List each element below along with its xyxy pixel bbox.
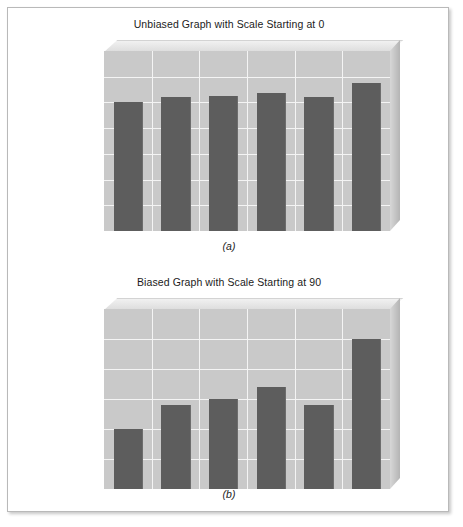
bar-2006[interactable]	[257, 387, 287, 489]
bar-2005[interactable]	[209, 96, 239, 231]
bar-chart-a: 0204060801001201402003200420052006200720…	[104, 40, 414, 235]
bar-2003[interactable]	[114, 429, 144, 489]
plot-area-a: 0204060801001201402003200420052006200720…	[104, 51, 390, 231]
figure-b: Biased Graph with Scale Starting at 90 9…	[8, 270, 450, 510]
bar-2004[interactable]	[161, 405, 191, 489]
figure-caption-b: (b)	[8, 488, 450, 500]
bar-2007[interactable]	[304, 97, 334, 231]
bar-2008[interactable]	[352, 339, 382, 489]
chart-title-b: Biased Graph with Scale Starting at 90	[8, 276, 450, 288]
bar-2003[interactable]	[114, 102, 144, 231]
figure-caption-a: (a)	[8, 240, 450, 252]
bar-2005[interactable]	[209, 399, 239, 489]
figure-page-frame: Unbiased Graph with Scale Starting at 0 …	[7, 7, 449, 512]
bar-2008[interactable]	[352, 83, 382, 231]
gridline-vertical	[152, 309, 153, 489]
bar-2004[interactable]	[161, 97, 191, 231]
gridline-vertical	[199, 309, 200, 489]
gridline-vertical	[152, 51, 153, 231]
gridline-vertical	[295, 309, 296, 489]
figure-a: Unbiased Graph with Scale Starting at 0 …	[8, 12, 450, 262]
gridline-vertical	[342, 51, 343, 231]
gridline-vertical	[342, 309, 343, 489]
plot-3d-right-face	[390, 40, 400, 231]
bar-chart-b: 9095100105110115120200320042005200620072…	[104, 298, 414, 493]
gridline-vertical	[247, 51, 248, 231]
bar-2006[interactable]	[257, 93, 287, 231]
gridline-vertical	[199, 51, 200, 231]
plot-3d-right-face	[390, 298, 400, 489]
chart-title-a: Unbiased Graph with Scale Starting at 0	[8, 18, 450, 30]
bar-2007[interactable]	[304, 405, 334, 489]
plot-area-b: 9095100105110115120200320042005200620072…	[104, 309, 390, 489]
gridline-vertical	[247, 309, 248, 489]
gridline-vertical	[295, 51, 296, 231]
